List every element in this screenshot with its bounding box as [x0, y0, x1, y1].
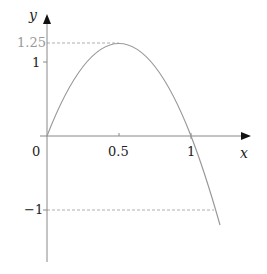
- x-half-label: 0.5: [108, 144, 129, 159]
- x-one-label: 1: [187, 144, 195, 159]
- y-axis-label: y: [28, 7, 38, 23]
- y-neg-one-label: −1: [24, 202, 43, 217]
- parabola-chart: y x 1.25 1 0 0.5 1 −1: [0, 0, 267, 274]
- x-axis-label: x: [240, 145, 248, 161]
- origin-label: 0: [32, 144, 40, 159]
- x-axis-arrow-icon: [241, 132, 251, 140]
- y-one-label: 1: [32, 55, 40, 70]
- y-max-label: 1.25: [17, 35, 46, 50]
- y-axis-arrow-icon: [43, 14, 51, 24]
- parabola-curve: [47, 44, 220, 226]
